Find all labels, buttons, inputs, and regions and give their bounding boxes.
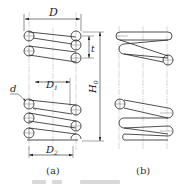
figure-caption [32,180,46,184]
figure-caption [52,180,62,184]
panel-label-b: (b) [136,165,150,176]
label-D1: D1 [45,79,58,91]
spring-diagram: D D1 D2 d t H0 (a) (b) [0,0,185,187]
label-d: d [10,83,16,94]
figure-caption [80,180,120,184]
panel-label-a: (a) [46,165,60,176]
panel-b-spring-outline [115,26,173,150]
label-D2: D2 [45,144,58,156]
label-t: t [91,44,95,54]
label-H0: H0 [87,80,99,94]
label-D: D [48,6,58,19]
